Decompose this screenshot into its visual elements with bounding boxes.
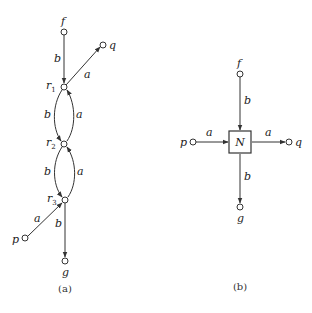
edge-r1-r2-b <box>54 90 62 141</box>
node-f-b <box>237 71 243 77</box>
label-p: p <box>12 233 19 246</box>
label-f-b: f <box>236 57 243 70</box>
node-p-b <box>190 139 196 145</box>
panel-a: f q r1 r2 r3 p g b a b a b a a b (a) <box>12 15 116 294</box>
edge-label-p-r3: a <box>34 212 41 225</box>
panel-b: N f p q g b a a b (b) <box>180 57 302 292</box>
label-g: g <box>62 266 69 279</box>
label-q: q <box>109 39 116 52</box>
edge-label-r3-g: b <box>55 217 62 230</box>
label-q-b: q <box>295 136 302 149</box>
edge-label-r2-r3: b <box>44 165 51 178</box>
node-g-b <box>237 204 243 210</box>
node-p <box>22 235 28 241</box>
node-q <box>100 42 106 48</box>
edge-label-r2-r1: a <box>76 108 83 121</box>
edge-r1-q <box>66 47 100 85</box>
edge-label-p-n: a <box>206 126 213 139</box>
node-r2 <box>61 141 67 147</box>
label-r1: r1 <box>46 79 56 94</box>
edge-r2-r1-a <box>67 90 74 141</box>
edge-label-r3-r2: a <box>77 165 84 178</box>
node-r1 <box>61 84 67 90</box>
edge-label-n-q: a <box>265 126 272 139</box>
node-r3 <box>62 197 68 203</box>
label-g-b: g <box>237 212 244 225</box>
caption-a: (a) <box>58 283 72 294</box>
edge-label-r1-r2: b <box>44 108 51 121</box>
label-f: f <box>60 15 67 28</box>
edge-label-f-r1: b <box>54 52 61 65</box>
node-f <box>61 29 67 35</box>
label-p-b: p <box>180 136 187 149</box>
node-g <box>62 258 68 264</box>
edge-label-f-n: b <box>244 94 251 107</box>
label-n: N <box>234 136 245 149</box>
caption-b: (b) <box>233 281 247 292</box>
label-r2: r2 <box>46 136 56 151</box>
edge-r3-r2-a <box>67 147 75 197</box>
label-r3: r3 <box>47 192 57 207</box>
diagram-canvas: f q r1 r2 r3 p g b a b a b a a b (a) N <box>0 0 312 313</box>
edge-label-r1-q: a <box>84 68 91 81</box>
node-q-b <box>286 139 292 145</box>
edge-r2-r3-b <box>55 147 63 197</box>
edge-label-n-g: b <box>244 170 251 183</box>
